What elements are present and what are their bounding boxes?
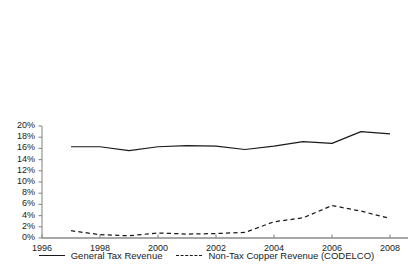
legend-swatch-solid-line-icon <box>39 255 65 256</box>
chart-legend: General Tax RevenueNon-Tax Copper Revenu… <box>0 250 413 261</box>
y-axis-tick-label: 20% <box>0 121 35 130</box>
y-axis-tick-label: 4% <box>0 211 35 220</box>
chart-series-line-1 <box>71 206 390 236</box>
legend-entry: General Tax Revenue <box>39 250 163 261</box>
y-axis-tick-label: 14% <box>0 155 35 164</box>
chart-plot-area <box>0 0 413 272</box>
legend-entry: Non-Tax Copper Revenue (CODELCO) <box>176 250 374 261</box>
legend-label: Non-Tax Copper Revenue (CODELCO) <box>208 250 374 261</box>
y-axis-tick-label: 18% <box>0 132 35 141</box>
y-axis-tick-label: 0% <box>0 233 35 242</box>
chart-container: 0%2%4%6%8%10%12%14%16%18%20% 19961998200… <box>0 0 413 272</box>
y-axis-tick-label: 16% <box>0 143 35 152</box>
legend-label: General Tax Revenue <box>71 250 163 261</box>
chart-series-layer <box>71 132 390 236</box>
y-axis-tick-label: 6% <box>0 199 35 208</box>
y-axis-tick-label: 8% <box>0 188 35 197</box>
chart-series-line-0 <box>71 132 390 151</box>
y-axis-tick-label: 10% <box>0 177 35 186</box>
chart-axes <box>39 126 409 238</box>
y-axis-tick-label: 12% <box>0 166 35 175</box>
legend-swatch-dashed-line-icon <box>176 255 202 256</box>
y-axis-tick-label: 2% <box>0 222 35 231</box>
